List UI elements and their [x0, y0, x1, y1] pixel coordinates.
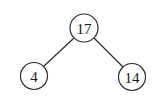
edge-root-left — [44, 38, 74, 66]
right-child-node: 14 — [119, 64, 146, 91]
right-child-label: 14 — [125, 70, 141, 86]
left-child-label: 4 — [30, 69, 38, 85]
root-node-label: 17 — [77, 21, 93, 37]
root-node: 17 — [70, 14, 98, 42]
left-child-node: 4 — [21, 63, 48, 90]
binary-tree-diagram: 17 4 14 — [0, 0, 156, 100]
edge-root-right — [94, 38, 123, 67]
